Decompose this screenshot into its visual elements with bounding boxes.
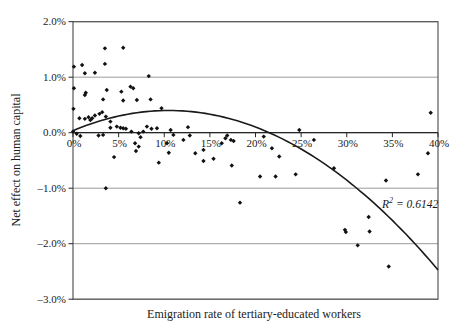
y-tick-label: 1.0% bbox=[43, 71, 66, 83]
x-tick-label: 5% bbox=[112, 137, 127, 149]
data-point bbox=[83, 117, 87, 121]
r-squared-symbol: R bbox=[382, 198, 389, 210]
x-axis-title: Emigration rate of tertiary-educated wor… bbox=[147, 307, 361, 322]
data-point bbox=[103, 46, 107, 50]
y-tick-label: 0.0% bbox=[43, 126, 66, 138]
data-point bbox=[103, 62, 107, 66]
scatter-chart: 2.0%1.0%0.0%–1.0%–2.0%–3.0%0%5%10%15%20%… bbox=[0, 0, 467, 328]
data-point bbox=[258, 174, 262, 178]
r-squared-value: = 0.6142 bbox=[393, 198, 438, 210]
data-point bbox=[72, 64, 76, 68]
data-point bbox=[167, 150, 171, 154]
data-point bbox=[149, 127, 153, 131]
data-point bbox=[138, 135, 142, 139]
data-point bbox=[133, 141, 137, 145]
data-point bbox=[104, 186, 108, 190]
data-point bbox=[238, 200, 242, 204]
y-axis-title: Net effect on human capital bbox=[9, 93, 24, 226]
data-point bbox=[148, 97, 152, 101]
data-point bbox=[134, 149, 138, 153]
data-point bbox=[277, 154, 281, 158]
x-tick-label: 20% bbox=[246, 137, 266, 149]
data-point bbox=[230, 163, 234, 167]
data-point bbox=[137, 131, 141, 135]
data-point bbox=[426, 151, 430, 155]
data-point bbox=[273, 174, 277, 178]
plot-border bbox=[73, 22, 438, 300]
data-point bbox=[119, 89, 123, 93]
data-point bbox=[72, 86, 76, 90]
data-point bbox=[77, 116, 81, 120]
y-tick-label: 2.0% bbox=[43, 15, 66, 27]
data-point bbox=[71, 107, 75, 111]
data-point bbox=[135, 98, 139, 102]
x-tick-label: 0% bbox=[67, 137, 82, 149]
data-point bbox=[201, 159, 205, 163]
data-point bbox=[121, 98, 125, 102]
data-point bbox=[293, 172, 297, 176]
data-point bbox=[157, 160, 161, 164]
y-tick-label: –1.0% bbox=[37, 182, 66, 194]
data-point bbox=[312, 138, 316, 142]
x-tick-label: 40% bbox=[429, 137, 449, 149]
data-point bbox=[270, 146, 274, 150]
data-point bbox=[101, 133, 105, 137]
data-point bbox=[115, 124, 119, 128]
data-point bbox=[297, 128, 301, 132]
data-point bbox=[101, 97, 105, 101]
y-tick-label: –3.0% bbox=[37, 293, 66, 305]
data-point bbox=[112, 155, 116, 159]
data-point bbox=[93, 71, 97, 75]
y-tick-label: –2.0% bbox=[37, 237, 66, 249]
r-squared-annotation: R2 = 0.6142 bbox=[382, 196, 438, 210]
data-point bbox=[93, 113, 97, 117]
data-point bbox=[384, 178, 388, 182]
x-tick-label: 15% bbox=[201, 137, 221, 149]
data-point bbox=[387, 264, 391, 268]
data-point bbox=[367, 229, 371, 233]
data-point bbox=[429, 111, 433, 115]
x-tick-label: 25% bbox=[292, 137, 312, 149]
data-point bbox=[108, 126, 112, 130]
data-point bbox=[193, 151, 197, 155]
data-point bbox=[108, 119, 112, 123]
data-point bbox=[80, 63, 84, 67]
data-point bbox=[186, 125, 190, 129]
data-point bbox=[416, 172, 420, 176]
data-point bbox=[155, 126, 159, 130]
data-point bbox=[168, 128, 172, 132]
data-point bbox=[96, 133, 100, 137]
data-point bbox=[145, 124, 149, 128]
data-point bbox=[188, 133, 192, 137]
data-point bbox=[121, 46, 125, 50]
data-point bbox=[211, 157, 215, 161]
x-tick-label: 35% bbox=[383, 137, 403, 149]
data-point bbox=[83, 71, 87, 75]
x-tick-label: 30% bbox=[338, 137, 358, 149]
data-point bbox=[105, 88, 109, 92]
scatter-plot-svg: 2.0%1.0%0.0%–1.0%–2.0%–3.0%0%5%10%15%20%… bbox=[0, 0, 467, 328]
data-point bbox=[181, 138, 185, 142]
data-point bbox=[366, 215, 370, 219]
data-point bbox=[137, 144, 141, 148]
